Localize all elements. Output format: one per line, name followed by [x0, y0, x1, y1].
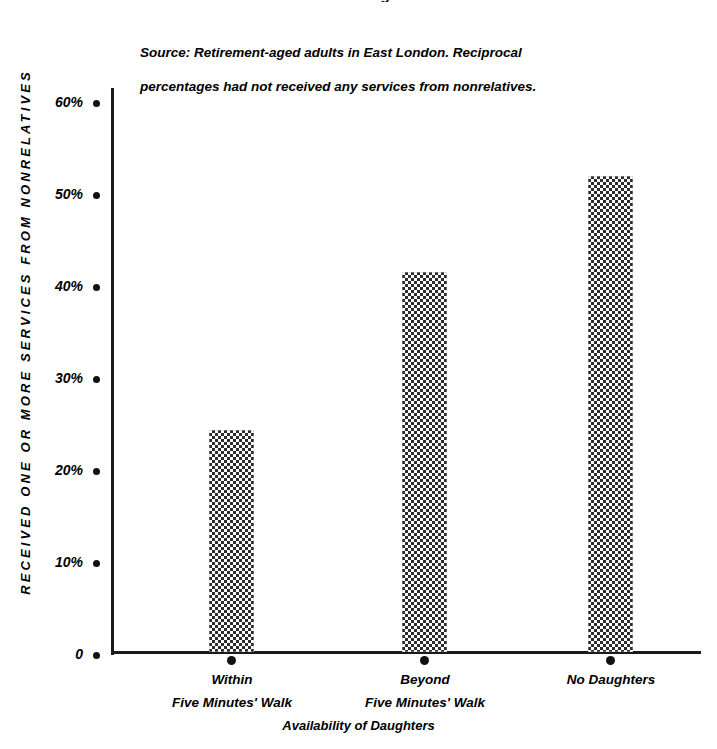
y-tick-dot-50: [93, 192, 100, 199]
y-tick-dot-10: [93, 560, 100, 567]
x-tick-dot-3: [606, 656, 615, 665]
x-category-label-2-line2: Five Minutes' Walk: [310, 691, 540, 714]
bar-beyond-five-minutes-walk: [402, 272, 447, 652]
y-tick-label-20: 20%: [55, 462, 83, 478]
x-tick-dot-1: [227, 656, 236, 665]
y-axis-line: [111, 88, 114, 655]
y-tick-dot-40: [93, 284, 100, 291]
y-tick-dot-30: [93, 376, 100, 383]
y-tick-label-50: 50%: [55, 186, 83, 202]
y-tick-label-40: 40%: [55, 278, 83, 294]
y-tick-label-30: 30%: [55, 370, 83, 386]
x-tick-dot-2: [420, 656, 429, 665]
chart-figure: Percentage RECEIVED ONE OR MORE SERVICES…: [0, 0, 717, 749]
y-tick-dot-0: [93, 652, 100, 659]
bar-no-daughters: [588, 176, 633, 652]
y-tick-label-10: 10%: [55, 554, 83, 570]
y-tick-dot-60: [93, 100, 100, 107]
source-note-line-1: Source: Retirement-aged adults in East L…: [140, 36, 618, 70]
source-note: Source: Retirement-aged adults in East L…: [140, 36, 618, 104]
x-category-label-3-line1: No Daughters: [496, 668, 717, 691]
x-axis-title: Availability of Daughters: [0, 718, 717, 733]
bar-within-five-minutes-walk: [209, 430, 254, 652]
x-category-label-3: No Daughters: [496, 668, 717, 691]
source-note-line-2: percentages had not received any service…: [140, 70, 618, 104]
y-tick-dot-20: [93, 468, 100, 475]
y-axis-ticks: 60% 50% 40% 30% 20% 10% 0: [0, 0, 111, 749]
y-tick-label-0: 0: [75, 646, 83, 662]
y-tick-label-60: 60%: [55, 94, 83, 110]
